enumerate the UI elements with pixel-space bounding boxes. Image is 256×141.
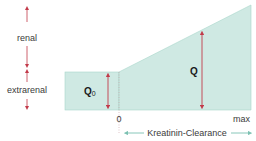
axis-max-label: max [233, 114, 251, 124]
axis-title: Kreatinin-Clearance [147, 128, 227, 138]
extrarenal-label: extrarenal [7, 85, 47, 95]
elimination-diagram: renal extrarenal Q0 Q 0 max Kreatinin-Cl… [0, 0, 256, 141]
renal-area [119, 5, 251, 110]
renal-label: renal [17, 33, 37, 43]
axis-zero-label: 0 [116, 114, 121, 124]
q-label: Q [190, 66, 198, 77]
